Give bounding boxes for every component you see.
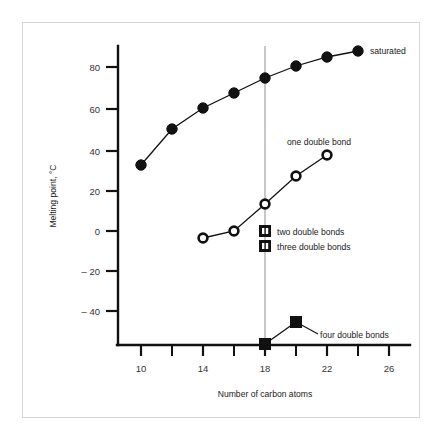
four-double-bonds-point-c18 — [260, 339, 271, 350]
x-tick-label-14: 14 — [198, 363, 209, 374]
two-double-bonds-marker-inner-right — [266, 228, 268, 234]
one-double-bond-point-c20 — [292, 172, 301, 181]
x-tick-label-18: 18 — [260, 363, 271, 374]
figure-root: 80 60 40 20 0 – 20 – 40 10 14 18 22 26 — [0, 0, 443, 433]
y-tick-label-m20: – 20 — [82, 266, 101, 277]
y-tick-label-0: 0 — [95, 226, 100, 237]
series-three-double-bonds: three double bonds — [260, 241, 351, 253]
y-tick-marks — [106, 67, 118, 311]
y-tick-label-m40: – 40 — [82, 306, 101, 317]
saturated-point-c24 — [353, 46, 363, 56]
saturated-point-c16 — [229, 88, 239, 98]
melting-point-chart: 80 60 40 20 0 – 20 – 40 10 14 18 22 26 — [0, 0, 443, 433]
series-two-double-bonds: two double bonds — [260, 226, 345, 238]
one-double-bond-point-c16 — [230, 227, 239, 236]
series-saturated: saturated — [136, 46, 406, 170]
series-label-saturated: saturated — [370, 46, 406, 56]
x-tick-labels: 10 14 18 22 26 — [136, 363, 395, 374]
x-tick-label-22: 22 — [322, 363, 333, 374]
one-double-bond-point-c22 — [323, 151, 332, 160]
y-tick-label-80: 80 — [89, 62, 100, 73]
series-label-four-double-bonds: four double bonds — [320, 330, 389, 340]
y-tick-label-40: 40 — [89, 146, 100, 157]
axes-group — [117, 46, 410, 345]
y-tick-labels: 80 60 40 20 0 – 20 – 40 — [82, 62, 101, 317]
one-double-bond-point-c18 — [261, 200, 270, 209]
saturated-point-c12 — [167, 124, 177, 134]
series-label-three-double-bonds: three double bonds — [277, 242, 351, 252]
series-label-one-double-bond: one double bond — [287, 137, 351, 147]
saturated-point-c22 — [322, 52, 332, 62]
x-axis-title: Number of carbon atoms — [218, 389, 313, 399]
x-tick-label-10: 10 — [136, 363, 147, 374]
saturated-point-c20 — [291, 61, 301, 71]
three-double-bonds-marker — [260, 241, 271, 252]
y-axis-title: Melting point, °C — [48, 164, 58, 227]
one-double-bond-point-c14 — [199, 234, 208, 243]
two-double-bonds-marker-inner-left — [262, 228, 264, 234]
series-label-two-double-bonds: two double bonds — [277, 227, 344, 237]
three-double-bonds-marker-inner-right — [266, 243, 268, 249]
x-tick-label-26: 26 — [384, 363, 395, 374]
y-tick-label-20: 20 — [89, 186, 100, 197]
two-double-bonds-marker — [260, 226, 271, 237]
saturated-point-c18 — [260, 73, 270, 83]
saturated-point-c10 — [136, 160, 146, 170]
saturated-point-c14 — [198, 103, 208, 113]
three-double-bonds-marker-inner-left — [262, 243, 264, 249]
y-tick-label-60: 60 — [89, 104, 100, 115]
saturated-line — [141, 51, 358, 165]
